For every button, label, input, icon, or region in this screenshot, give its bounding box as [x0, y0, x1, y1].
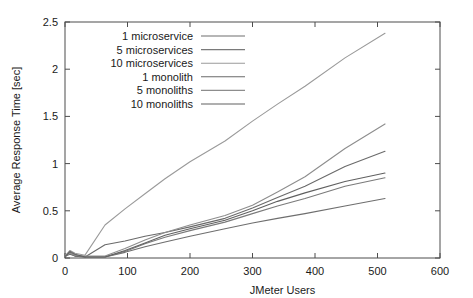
legend-label: 1 monolith: [142, 71, 193, 83]
legend-label: 5 monoliths: [137, 84, 194, 96]
x-tick-label: 500: [368, 265, 386, 277]
legend-label: 5 microservices: [117, 44, 194, 56]
y-tick-label: 1: [52, 158, 58, 170]
y-tick-label: 2.5: [43, 16, 58, 28]
x-axis-title: JMeter Users: [250, 284, 316, 296]
x-tick-label: 100: [118, 265, 136, 277]
legend-label: 1 microservice: [122, 30, 193, 42]
legend-label: 10 microservices: [110, 57, 193, 69]
y-tick-label: 1.5: [43, 110, 58, 122]
x-tick-label: 400: [306, 265, 324, 277]
y-tick-label: 0.5: [43, 205, 58, 217]
x-tick-label: 200: [181, 265, 199, 277]
y-axis-title: Average Response Time [sec]: [10, 67, 22, 214]
x-tick-label: 0: [62, 265, 68, 277]
x-tick-label: 300: [243, 265, 261, 277]
chart-canvas: 00.511.522.50100200300400500600 1 micros…: [0, 0, 473, 298]
y-tick-label: 2: [52, 63, 58, 75]
x-tick-label: 600: [431, 265, 449, 277]
y-tick-label: 0: [52, 252, 58, 264]
legend-label: 10 monoliths: [131, 98, 194, 110]
response-time-chart: 00.511.522.50100200300400500600 1 micros…: [0, 0, 473, 298]
